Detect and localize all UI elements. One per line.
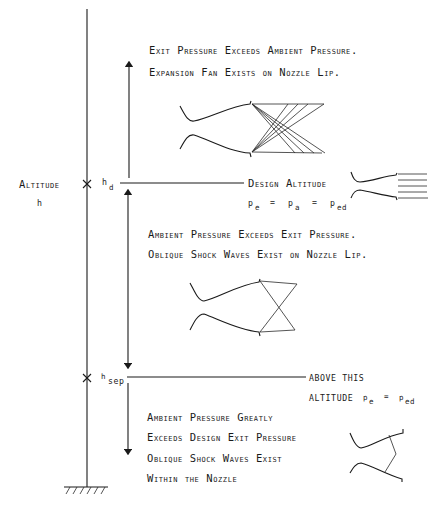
altitude-axis xyxy=(64,9,108,494)
ground-hatch-icon xyxy=(64,487,108,494)
lower-region-line1: Ambient Pressure Greatly xyxy=(147,411,273,423)
svg-text:p: p xyxy=(330,198,336,208)
nozzle-internal-shock-icon xyxy=(350,429,403,482)
svg-text:d: d xyxy=(109,183,114,192)
lower-region-line3: Oblique Shock Waves Exist xyxy=(147,452,282,464)
hsep-label: h sep xyxy=(101,372,125,386)
svg-text:h: h xyxy=(101,372,106,381)
svg-text:=: = xyxy=(270,197,276,207)
upper-region-line2: Expansion Fan Exists on Nozzle Lip. xyxy=(149,66,341,78)
middle-region-line2: Oblique Shock Waves Exist on Nozzle Lip. xyxy=(148,248,368,260)
svg-text:a: a xyxy=(295,203,300,212)
separation-label-line1: ABOVE THIS xyxy=(309,373,364,383)
design-pressure-equation: p e = p a = p ed xyxy=(248,197,347,212)
nozzle-design-flow-icon xyxy=(351,172,428,200)
svg-text:ed: ed xyxy=(405,397,415,406)
svg-text:p: p xyxy=(248,198,254,208)
svg-text:e: e xyxy=(369,397,374,406)
svg-text:h: h xyxy=(102,177,108,187)
svg-text:sep: sep xyxy=(108,376,125,386)
nozzle-expansion-fan-icon xyxy=(180,101,325,157)
lower-region-line4: Within the Nozzle xyxy=(147,472,237,484)
lower-region-line2: Exceeds Design Exit Pressure xyxy=(147,431,297,443)
separation-pressure-equation: p e = p ed xyxy=(363,392,415,406)
design-altitude-label: Design Altitude xyxy=(248,177,327,189)
middle-region-line1: Ambient Pressure Exceeds Exit Pressure. xyxy=(148,228,357,240)
svg-text:e: e xyxy=(255,203,260,212)
svg-text:=: = xyxy=(312,197,318,207)
svg-text:ed: ed xyxy=(337,203,347,212)
nozzle-altitude-diagram: Altitude h h d h sep Exit Pressure Excee… xyxy=(0,0,448,511)
separation-label-line2: ALTITUDE xyxy=(309,393,353,403)
svg-text:=: = xyxy=(384,392,389,401)
svg-text:p: p xyxy=(363,393,368,402)
svg-text:p: p xyxy=(288,198,294,208)
svg-text:p: p xyxy=(399,393,404,402)
nozzle-lip-shock-icon xyxy=(190,279,297,336)
upper-region-line1: Exit Pressure Exceeds Ambient Pressure. xyxy=(149,44,358,56)
hd-label: h d xyxy=(102,177,114,192)
axis-symbol: h xyxy=(37,198,43,208)
axis-label: Altitude xyxy=(19,178,60,190)
